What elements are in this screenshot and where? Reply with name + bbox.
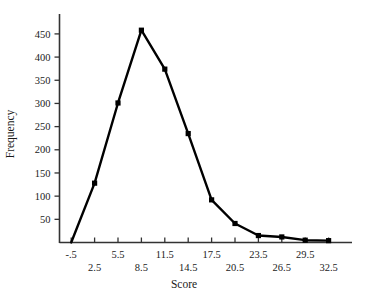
y-tick-label: 400 — [35, 52, 51, 63]
x-tick-label: 8.5 — [135, 262, 148, 273]
frequency-distribution-chart: 45040035030025020015010050 -.52.55.58.51… — [0, 0, 365, 298]
y-tick-label: 100 — [35, 191, 51, 202]
data-point-marker — [232, 221, 237, 226]
x-tick-label: -.5 — [66, 249, 77, 260]
data-point-marker — [279, 234, 284, 239]
data-point-marker — [186, 131, 191, 136]
data-point-marker — [209, 197, 214, 202]
x-tick-label: 32.5 — [319, 262, 337, 273]
y-axis-title: Frequency — [4, 109, 17, 158]
data-point-marker — [256, 233, 261, 238]
y-tick-label: 350 — [35, 75, 51, 86]
y-tick-label: 450 — [35, 29, 51, 40]
data-point-marker — [303, 238, 308, 243]
x-axis-title: Score — [171, 278, 197, 290]
x-tick-label: 26.5 — [273, 262, 291, 273]
data-series-line — [71, 30, 328, 242]
x-tick-label: 29.5 — [296, 249, 314, 260]
x-tick-label: 14.5 — [179, 262, 197, 273]
x-tick-label: 2.5 — [88, 262, 101, 273]
y-tick-label: 150 — [35, 168, 51, 179]
data-point-marker — [139, 28, 144, 33]
y-tick-label: 300 — [35, 98, 51, 109]
plot-area: 45040035030025020015010050 -.52.55.58.51… — [0, 0, 365, 298]
y-tick-label: 250 — [35, 121, 51, 132]
x-tick-label: 11.5 — [156, 249, 174, 260]
x-tick-label: 5.5 — [111, 249, 124, 260]
y-tick-label: 200 — [35, 144, 51, 155]
data-point-marker — [115, 100, 120, 105]
x-tick-label: 17.5 — [202, 249, 220, 260]
data-point-marker — [162, 67, 167, 72]
y-tick-label: 50 — [40, 214, 51, 225]
data-point-markers — [92, 28, 331, 244]
x-tick-label: 23.5 — [249, 249, 267, 260]
x-tick-label: 20.5 — [226, 262, 244, 273]
data-point-marker — [326, 238, 331, 243]
y-tick-group: 45040035030025020015010050 — [35, 29, 60, 225]
data-point-marker — [92, 181, 97, 186]
